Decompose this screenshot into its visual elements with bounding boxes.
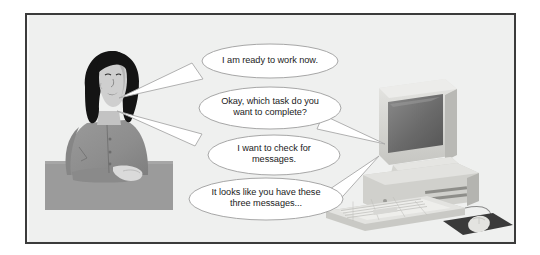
speech-bubble-3-text: I want to check for messages. <box>208 143 340 166</box>
person-figure <box>45 51 173 210</box>
illustration-scene: I am ready to work now. Okay, which task… <box>0 0 540 255</box>
speech-bubble-1-text: I am ready to work now. <box>202 55 338 66</box>
person-neck <box>97 111 121 125</box>
speech-bubble-2-text: Okay, which task do you want to complete… <box>200 96 340 119</box>
speech-bubble-4-text: It looks like you have these three messa… <box>189 187 343 210</box>
illustration-frame: I am ready to work now. Okay, which task… <box>25 13 516 244</box>
computer-figure <box>326 79 513 235</box>
